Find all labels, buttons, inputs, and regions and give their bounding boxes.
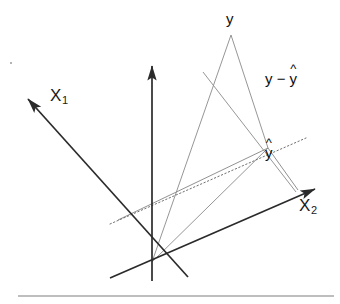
axis-label-x2-subscript: 2 <box>311 204 317 216</box>
axis-label-x2-text: X <box>299 196 311 215</box>
stray-speck <box>10 62 12 64</box>
point-label-y: y <box>226 11 234 26</box>
axis-label-x1-subscript: 1 <box>62 94 68 106</box>
axis-label-x1-text: X <box>50 86 62 105</box>
point-label-y-text: y <box>226 10 234 27</box>
y-hat-glyph: ^y <box>265 145 273 160</box>
y-to-yhat-line <box>231 35 268 148</box>
axis-label-x1: X1 <box>50 87 68 104</box>
residual-label-prefix: y − <box>265 70 290 87</box>
projection-diagram-figure: X1 X2 y ^y y − ^y <box>0 0 340 304</box>
point-label-y-hat: ^y <box>265 145 273 160</box>
diagram-canvas <box>0 0 340 304</box>
residual-label: y − ^y <box>265 71 297 86</box>
y-hat-caret: ^ <box>266 136 272 149</box>
residual-y-hat-caret: ^ <box>290 62 296 75</box>
x1-axis-line <box>28 99 188 277</box>
residual-guide-line <box>203 72 296 192</box>
dotted-plane-line <box>110 138 306 224</box>
origin-to-yhat-line <box>152 148 268 262</box>
residual-y-hat-glyph: ^y <box>290 71 298 86</box>
origin-to-y-line <box>152 35 231 262</box>
axis-label-x2: X2 <box>299 197 317 214</box>
plane-edge-left-line <box>118 148 268 220</box>
